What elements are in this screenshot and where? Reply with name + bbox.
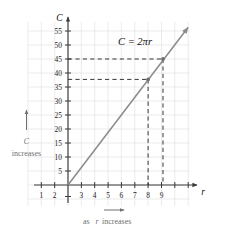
y-tick-label: 5 (58, 167, 62, 176)
left-annotation-variable: C (24, 137, 30, 146)
y-tick-label: 40 (55, 69, 63, 78)
y-tick-label: 55 (55, 27, 63, 36)
y-tick-label: 45 (55, 55, 63, 64)
grid-lines (28, 22, 190, 206)
y-tick-label: 30 (55, 97, 63, 106)
bottom-annotation-prefix: as (83, 217, 90, 226)
y-tick-label: 35 (55, 83, 63, 92)
x-tick-label: 7 (133, 191, 137, 200)
x-tick-label: 9 (160, 191, 164, 200)
marked-point (161, 57, 165, 61)
x-tick-label: 1 (39, 191, 43, 200)
y-tick-labels: 5 10 15 20 25 30 35 40 45 50 55 (55, 27, 63, 176)
y-tick-label: 20 (55, 125, 63, 134)
x-tick-label: 5 (106, 191, 110, 200)
y-tick-label: 50 (55, 41, 63, 50)
data-line-c-equals-2pir (68, 28, 188, 186)
x-tick-label: 6 (120, 191, 124, 200)
x-tick-label: 4 (93, 191, 97, 200)
y-tick-label: 25 (55, 111, 63, 120)
y-tick-label: 10 (55, 153, 63, 162)
circumference-vs-radius-chart: 1 2 3 4 5 6 7 8 9 5 10 15 20 25 30 35 40… (0, 0, 226, 232)
x-tick-label: 3 (80, 191, 84, 200)
bottom-annotation-variable: r (96, 217, 100, 226)
marked-point (146, 78, 150, 82)
y-tick-label: 15 (55, 139, 63, 148)
left-annotation-text: increases (12, 149, 41, 158)
equation-label: C = 2πr (118, 36, 153, 47)
figure-container: 1 2 3 4 5 6 7 8 9 5 10 15 20 25 30 35 40… (0, 0, 226, 232)
y-axis-label: C (56, 13, 63, 23)
x-tick-labels: 1 2 3 4 5 6 7 8 9 (39, 191, 163, 200)
x-tick-label: 8 (146, 191, 150, 200)
x-axis-ticks (41, 182, 188, 197)
bottom-annotation: as r increases (83, 217, 131, 226)
x-axis-label: r (201, 187, 205, 197)
x-tick-label: 2 (53, 191, 57, 200)
bottom-annotation-text: increases (102, 217, 131, 226)
